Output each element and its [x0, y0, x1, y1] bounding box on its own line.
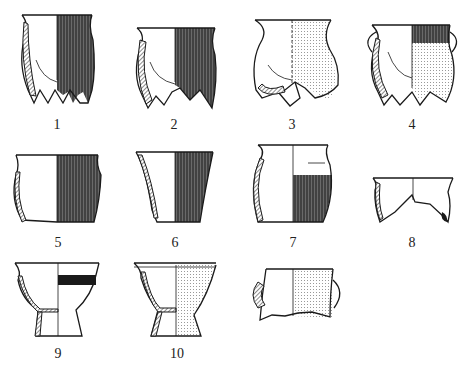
- figure-label-6: 6: [160, 236, 190, 250]
- vessel-1-drawing: [22, 15, 95, 103]
- vessel-3-drawing: [254, 20, 338, 106]
- figure-label-7: 7: [278, 236, 308, 250]
- vessel-7-drawing: [253, 145, 332, 222]
- figure-label-8: 8: [397, 236, 427, 250]
- pottery-figure-plate: 1 2 3 4 5 6 7 8 9 10: [0, 0, 464, 369]
- vessel-5-drawing: [14, 155, 101, 222]
- figure-label-5: 5: [43, 236, 73, 250]
- figure-label-4: 4: [397, 118, 427, 132]
- vessel-10-drawing: [134, 263, 216, 336]
- figure-label-2: 2: [159, 118, 189, 132]
- figure-label-3: 3: [277, 118, 307, 132]
- vessel-6-drawing: [136, 152, 213, 222]
- vessel-11-drawing: [253, 269, 340, 320]
- vessel-4-drawing: [368, 25, 457, 105]
- vessel-8-drawing: [373, 178, 453, 222]
- figure-label-10: 10: [162, 347, 192, 361]
- vessel-2-drawing: [136, 28, 216, 108]
- vessel-9-drawing: [15, 263, 99, 336]
- figure-label-9: 9: [43, 347, 73, 361]
- pottery-drawings: [0, 0, 464, 369]
- figure-label-1: 1: [42, 118, 72, 132]
